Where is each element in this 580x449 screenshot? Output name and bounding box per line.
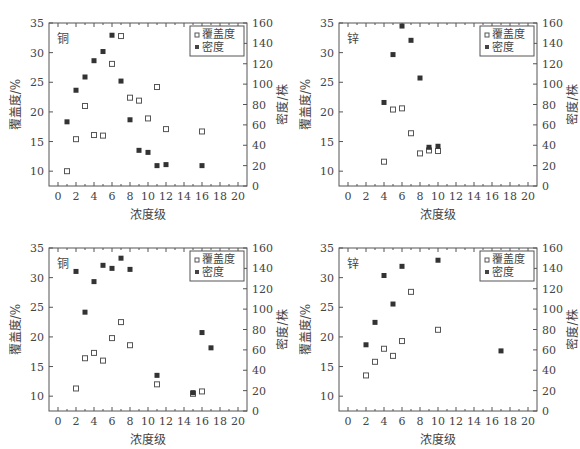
y2-tick-label: 140 [252, 262, 273, 275]
y-tick-label: 30 [320, 272, 334, 285]
coverage-point [164, 127, 169, 132]
y2-tick-label: 100 [542, 78, 563, 91]
coverage-point [400, 339, 405, 344]
x-tick-label: 0 [345, 415, 352, 428]
density-point [137, 148, 142, 153]
y2-tick-label: 140 [252, 37, 273, 50]
legend-label: 覆盖度 [202, 27, 235, 41]
x-tick-label: 8 [417, 190, 424, 203]
y-tick-label: 35 [320, 17, 334, 30]
density-point [409, 38, 414, 43]
density-point [119, 256, 124, 261]
x-axis-label: 浓度级 [420, 432, 456, 447]
density-point [101, 49, 106, 54]
density-point [436, 258, 441, 263]
x-tick-label: 18 [503, 190, 517, 203]
x-tick-label: 10 [141, 415, 155, 428]
density-point [128, 267, 133, 272]
x-tick-label: 16 [195, 415, 209, 428]
y2-tick-label: 120 [542, 58, 563, 71]
legend-open-square-icon [195, 258, 199, 262]
panel-label: 锌 [347, 32, 359, 46]
density-point [92, 279, 97, 284]
x-tick-label: 20 [521, 190, 535, 203]
y2-tick-label: 120 [252, 283, 273, 296]
x-tick-label: 2 [73, 190, 80, 203]
x-tick-label: 4 [91, 190, 98, 203]
density-point [499, 348, 504, 353]
y-tick-label: 25 [320, 301, 334, 314]
density-point [418, 76, 423, 81]
y2-tick-label: 60 [542, 119, 556, 132]
coverage-point [409, 289, 414, 294]
coverage-point [400, 106, 405, 111]
density-point [382, 273, 387, 278]
density-point [400, 24, 405, 29]
coverage-point [110, 336, 115, 341]
x-tick-label: 18 [213, 415, 227, 428]
y-tick-label: 10 [320, 390, 334, 403]
density-point [128, 117, 133, 122]
x-tick-label: 2 [363, 415, 370, 428]
coverage-point [128, 95, 133, 100]
y2-tick-label: 80 [542, 324, 556, 337]
density-point [436, 144, 441, 149]
coverage-point [200, 389, 205, 394]
coverage-point [200, 129, 205, 134]
y2-tick-label: 120 [542, 283, 563, 296]
x-tick-label: 20 [521, 415, 535, 428]
legend-label: 密度 [492, 40, 514, 54]
coverage-point [373, 359, 378, 364]
y-tick-label: 25 [320, 76, 334, 89]
density-point [83, 310, 88, 315]
y-tick-label: 30 [30, 272, 44, 285]
coverage-point [364, 373, 369, 378]
y-tick-label: 15 [30, 136, 44, 149]
y2-tick-label: 160 [252, 242, 273, 255]
chart-svg: 0246810121416182010152025303502040608010… [0, 225, 290, 449]
y2-tick-label: 40 [252, 139, 266, 152]
x-tick-label: 6 [109, 415, 116, 428]
legend-filled-square-icon [195, 270, 199, 274]
x-tick-label: 4 [91, 415, 98, 428]
panel-label: 铜 [57, 256, 69, 271]
y-axis-label: 覆盖度/% [8, 304, 23, 355]
coverage-point [83, 356, 88, 361]
y-tick-label: 20 [320, 331, 334, 344]
density-point [200, 163, 205, 168]
density-point [391, 52, 396, 57]
x-tick-label: 6 [399, 190, 406, 203]
y-tick-label: 15 [320, 361, 334, 374]
y-tick-label: 20 [30, 331, 44, 344]
x-tick-label: 12 [159, 190, 173, 203]
y-tick-label: 15 [30, 361, 44, 374]
x-tick-label: 4 [381, 190, 388, 203]
x-tick-label: 16 [485, 190, 499, 203]
coverage-point [155, 382, 160, 387]
y-tick-label: 25 [30, 76, 44, 89]
density-point [364, 342, 369, 347]
chart-panel-zinc-1: 0246810121416182010152025303502040608010… [290, 0, 580, 224]
coverage-point [137, 98, 142, 103]
density-point [427, 145, 432, 150]
coverage-point [128, 343, 133, 348]
x-tick-label: 4 [381, 415, 388, 428]
density-point [164, 162, 169, 167]
chart-panel-zinc-2: 0246810121416182010152025303502040608010… [290, 225, 580, 449]
density-point [400, 264, 405, 269]
x-tick-label: 18 [213, 190, 227, 203]
chart-panel-copper-2: 0246810121416182010152025303502040608010… [0, 225, 290, 449]
y2-tick-label: 0 [252, 180, 259, 193]
density-point [155, 373, 160, 378]
x-tick-label: 10 [141, 190, 155, 203]
coverage-point [92, 350, 97, 355]
x-tick-label: 2 [363, 190, 370, 203]
legend-filled-square-icon [485, 45, 489, 49]
density-point [83, 74, 88, 79]
x-tick-label: 0 [345, 190, 352, 203]
coverage-point [92, 133, 97, 138]
y-tick-label: 10 [30, 165, 44, 178]
legend-label: 覆盖度 [492, 252, 525, 266]
coverage-point [74, 137, 79, 142]
coverage-point [83, 103, 88, 108]
